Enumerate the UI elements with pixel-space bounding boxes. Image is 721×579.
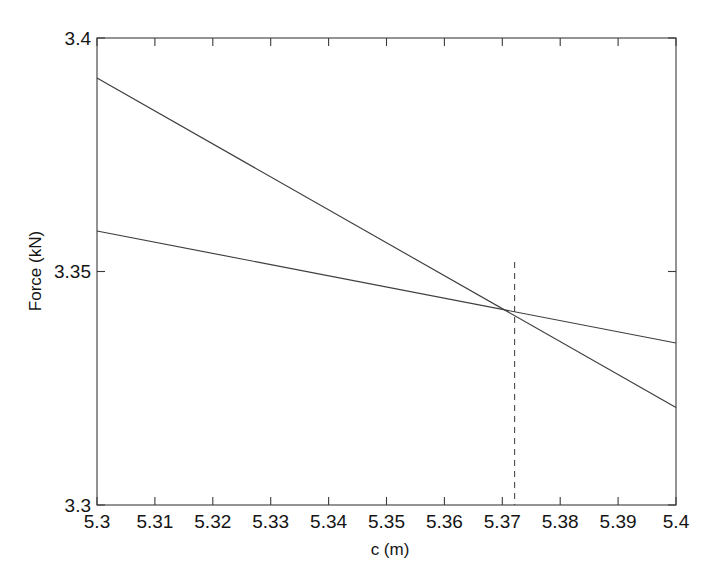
x-tick-label: 5.34	[310, 511, 347, 532]
force-vs-c-line-chart: 5.3 5.31 5.32 5.33 5.34 5.35 5.36 5.37 5…	[0, 0, 721, 579]
y-axis-ticks-left	[97, 38, 105, 505]
x-tick-label: 5.31	[136, 511, 173, 532]
x-tick-label: 5.39	[600, 511, 637, 532]
y-axis-title: Force (kN)	[26, 231, 45, 311]
x-tick-label: 5.4	[663, 511, 690, 532]
series-steep-line	[97, 78, 676, 408]
y-tick-label: 3.35	[54, 261, 91, 282]
y-tick-label: 3.4	[65, 28, 92, 49]
chart-figure: 5.3 5.31 5.32 5.33 5.34 5.35 5.36 5.37 5…	[0, 0, 721, 579]
x-tick-label: 5.35	[368, 511, 405, 532]
x-axis-title: c (m)	[371, 540, 410, 559]
y-tick-labels: 3.3 3.35 3.4	[54, 28, 91, 516]
x-axis-ticks-bottom	[97, 497, 676, 505]
x-tick-label: 5.37	[484, 511, 521, 532]
x-axis-ticks-top	[97, 38, 676, 46]
x-tick-label: 5.36	[426, 511, 463, 532]
x-tick-label: 5.38	[542, 511, 579, 532]
x-tick-labels: 5.3 5.31 5.32 5.33 5.34 5.35 5.36 5.37 5…	[84, 511, 690, 532]
y-tick-label: 3.3	[65, 495, 91, 516]
y-axis-ticks-right	[668, 38, 676, 505]
plot-frame	[97, 38, 676, 505]
x-tick-label: 5.33	[252, 511, 289, 532]
series-shallow-line	[97, 231, 676, 343]
x-tick-label: 5.32	[194, 511, 231, 532]
